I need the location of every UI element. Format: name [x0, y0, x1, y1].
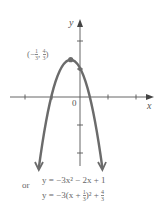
y-axis-label: y [69, 17, 73, 28]
equation-vertex-form: y = −3(x + 13)² + 43 [42, 189, 104, 202]
vertex-label: (−13, 43) [27, 48, 49, 61]
vertex-point [68, 57, 73, 62]
x-axis-label: x [147, 100, 151, 111]
or-label: or [22, 180, 30, 190]
equation-standard-form: y = −3x² − 2x + 1 [42, 175, 106, 185]
y-axis [77, 24, 83, 166]
origin-label: 0 [72, 98, 77, 108]
y-axis-arrow-icon [77, 19, 83, 27]
y-intercept-point [78, 67, 82, 71]
parabola-fit [39, 60, 103, 168]
